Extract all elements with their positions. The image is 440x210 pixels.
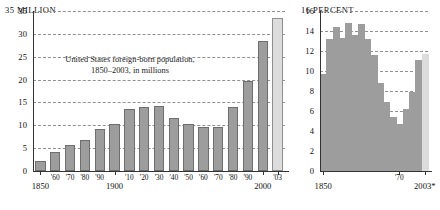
left-y-tick-10: 10	[0, 121, 27, 130]
left-x-label-2000: 2000	[247, 182, 279, 191]
right-chart-panel: 16 PERCENT Foreign-born population as pe…	[296, 0, 435, 210]
bar-1860	[50, 152, 60, 171]
gridline-25	[33, 57, 285, 58]
bar-1890	[95, 129, 105, 171]
left-plot-area	[33, 11, 285, 171]
right-x-label-1850: 1850	[305, 182, 341, 191]
left-chart-panel: 35 MILLION United States foreign-born po…	[0, 0, 290, 210]
left-y-tick-35: 35	[0, 7, 27, 16]
bar-1940	[169, 118, 179, 171]
bar-1930	[154, 106, 164, 171]
right-y-tick-12: 12	[296, 47, 314, 56]
bar-1950	[183, 124, 193, 171]
right-y-axis	[320, 11, 321, 171]
bar-1960	[198, 127, 208, 171]
bar-1850	[35, 161, 45, 171]
left-x-label-1900: 1900	[99, 182, 131, 191]
right-x-tick-1850	[323, 171, 324, 175]
right-y-tick-16: 16	[296, 7, 314, 16]
bar-1900	[109, 124, 119, 171]
left-x-axis	[33, 171, 289, 172]
left-y-tick-20: 20	[0, 76, 27, 85]
left-y-tick-0: 0	[0, 167, 27, 176]
bar-1970	[213, 127, 223, 171]
bar-1880	[80, 140, 90, 171]
left-y-tick-15: 15	[0, 98, 27, 107]
left-x-label-1850: 1850	[24, 182, 56, 191]
left-y-tick-30: 30	[0, 30, 27, 39]
right-plot-area	[320, 11, 428, 171]
right-y-tick-6: 6	[296, 107, 314, 116]
bar-1990	[243, 81, 253, 172]
right-x-label-2003*: 2003*	[407, 182, 440, 191]
right-y-tick-10: 10	[296, 67, 314, 76]
gridline-35	[33, 11, 285, 12]
right-x-tick-2003*	[425, 171, 426, 175]
left-y-tick-25: 25	[0, 53, 27, 62]
bar-1870	[65, 145, 75, 171]
bar-1920	[139, 107, 149, 171]
step-2003	[422, 54, 429, 171]
right-y-tick-0: 0	[296, 167, 314, 176]
right-x-axis	[320, 171, 432, 172]
r-gridline-16	[320, 11, 428, 12]
bar-1980	[228, 107, 238, 171]
bar-2003	[272, 18, 282, 171]
right-x-label-'70: '70	[381, 174, 417, 181]
left-x-label-'03: '03	[262, 174, 294, 181]
right-y-tick-14: 14	[296, 27, 314, 36]
left-y-axis	[33, 11, 34, 171]
bar-2000	[258, 41, 268, 171]
right-y-tick-4: 4	[296, 127, 314, 136]
bar-1910	[124, 109, 134, 171]
right-y-tick-8: 8	[296, 87, 314, 96]
left-y-tick-5: 5	[0, 144, 27, 153]
gridline-30	[33, 34, 285, 35]
right-y-tick-2: 2	[296, 147, 314, 156]
